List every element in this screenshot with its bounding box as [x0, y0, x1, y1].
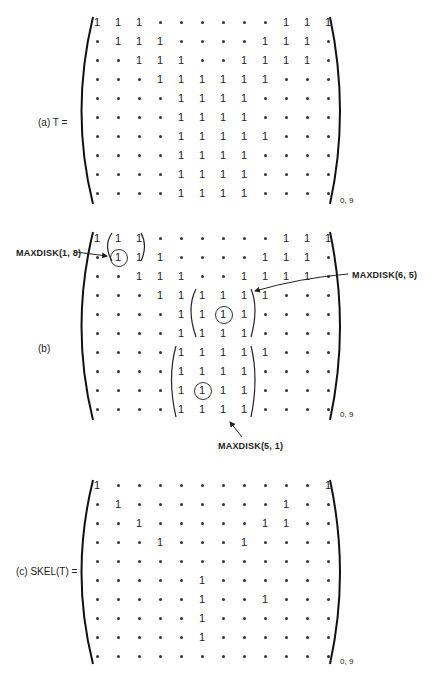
brackets-and-arrows — [0, 0, 433, 677]
